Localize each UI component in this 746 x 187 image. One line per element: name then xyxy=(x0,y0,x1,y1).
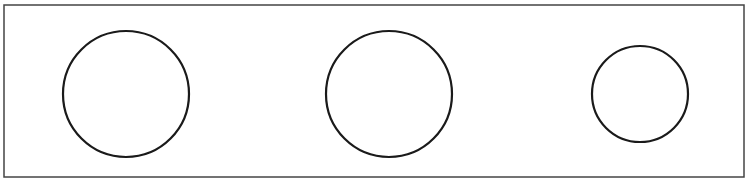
circle-small-right xyxy=(592,46,688,142)
frame-rectangle xyxy=(4,5,744,177)
circle-large-left xyxy=(63,31,189,157)
circle-large-middle xyxy=(326,31,452,157)
diagram-canvas xyxy=(0,0,746,187)
